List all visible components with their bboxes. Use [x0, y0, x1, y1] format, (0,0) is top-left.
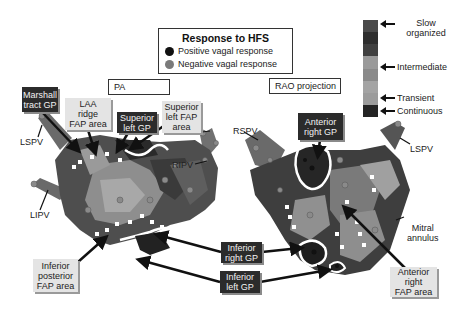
color-scale-bar [363, 20, 378, 117]
annotation-inferior-right-gp: Inferior right GP [221, 242, 262, 263]
scale-label-slow: Slow organized [395, 18, 457, 38]
annotation-inferior-posterior-fap: Inferior posterior FAP area [33, 259, 78, 292]
annotation-anterior-right-gp: Anterior right GP [298, 113, 343, 140]
pa-map [31, 112, 219, 255]
annotation-superior-left-gp: Superior left GP [117, 112, 157, 133]
legend-label: Positive vagal response [178, 46, 273, 56]
scale-label-transient: Transient [397, 93, 434, 103]
legend-item-negative: Negative vagal response [165, 59, 277, 69]
figure: Response to HFS Positive vagal response … [0, 0, 467, 312]
scale-label-continuous: Continuous [397, 106, 443, 116]
black-dot-icon [165, 47, 174, 56]
label-ripv: RIPV [172, 160, 193, 170]
annotation-inferior-left-gp: Inferior left GP [220, 271, 260, 293]
label-lspv-right: LSPV [410, 144, 433, 154]
label-rspv: RSPV [233, 126, 258, 136]
gray-dot-icon [165, 60, 174, 69]
annotation-anterior-right-fap: Anterior right FAP area [390, 267, 437, 297]
label-lspv-left: LSPV [20, 137, 43, 147]
annotation-marshall-tract-gp: Marshall tract GP [22, 87, 58, 112]
scale-label-intermediate: Intermediate [397, 62, 447, 72]
label-lipv: LIPV [30, 210, 50, 220]
view-label-rao: RAO projection [269, 78, 341, 94]
legend-item-positive: Positive vagal response [165, 46, 273, 56]
legend-title: Response to HFS [159, 32, 292, 44]
annotation-superior-left-fap: Superior left FAP area [162, 101, 201, 133]
label-mitral-annulus: Mitral annulus [407, 223, 439, 243]
view-label-pa: PA [108, 79, 170, 95]
annotation-laa-ridge-fap: LAA ridge FAP area [65, 98, 111, 130]
legend-box: Response to HFS Positive vagal response … [158, 28, 293, 74]
legend-label: Negative vagal response [178, 59, 277, 69]
